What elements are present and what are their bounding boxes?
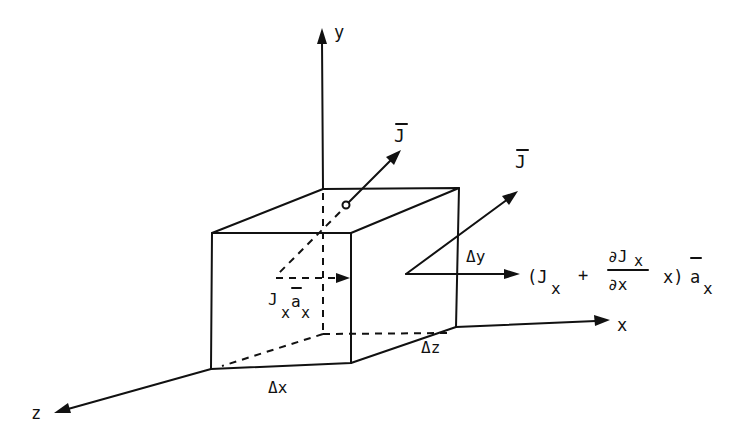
diagram-svg: y x z (0, 0, 749, 439)
exiting-flux-arrow (406, 269, 520, 279)
top-vector-label: J (394, 125, 405, 146)
svg-text:x: x (301, 304, 310, 322)
svg-text:a: a (291, 292, 301, 311)
z-axis (54, 369, 211, 413)
y-axis-label: y (334, 22, 344, 42)
svg-text:(J: (J (527, 267, 547, 287)
svg-text:x: x (703, 279, 713, 298)
cube-hidden-edges (222, 193, 448, 366)
svg-text:∂J: ∂J (608, 247, 627, 266)
cube-front-face (211, 233, 351, 369)
delta-y-label: Δy (466, 247, 486, 266)
svg-text:x: x (281, 304, 290, 322)
svg-text:a: a (690, 267, 700, 287)
svg-text:x: x (634, 252, 643, 270)
current-density-cube-diagram: y x z (0, 0, 749, 439)
z-axis-label: z (31, 403, 41, 423)
svg-text:x): x) (663, 267, 683, 287)
delta-z-label: Δz (421, 338, 440, 357)
svg-text:+: + (578, 265, 588, 285)
entering-flux-label: J x a x (268, 288, 310, 322)
top-current-vector (343, 150, 402, 209)
delta-x-label: Δx (268, 378, 288, 397)
svg-text:x: x (551, 279, 561, 298)
exiting-flux-formula: (J x + ∂J x ∂x x) a x (527, 247, 713, 298)
cube-top-face (212, 188, 459, 233)
entering-flux-arrow (276, 212, 350, 283)
right-vector-label: J (515, 151, 526, 172)
cube-right-edges (351, 188, 459, 363)
y-axis (317, 28, 327, 189)
x-axis (456, 315, 610, 327)
x-axis-label: x (617, 315, 627, 335)
svg-text:∂x: ∂x (608, 275, 628, 294)
svg-text:J: J (268, 290, 278, 309)
